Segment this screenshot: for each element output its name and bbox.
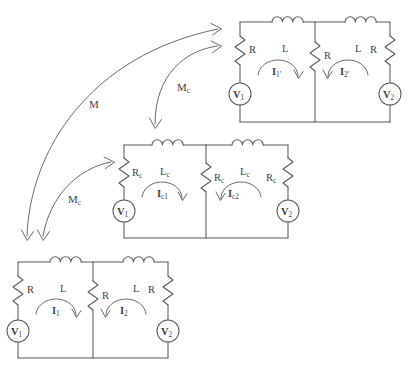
circuit-top-right xyxy=(229,17,401,122)
inductor-label-6: L xyxy=(133,284,139,296)
mesh-current-arrowhead-1 xyxy=(294,70,303,79)
inductor-label-4: Lc xyxy=(240,167,250,179)
diagram-vector-layer xyxy=(0,0,413,387)
resistor-zigzag-6 xyxy=(283,158,293,187)
coupling-label-mc-lower: Mc xyxy=(68,194,81,207)
resistor-label-6: Rc xyxy=(266,173,276,185)
resistor-label-8: R xyxy=(102,291,109,303)
mesh-current-arrowhead-2 xyxy=(323,70,332,79)
inductor-coil-1 xyxy=(272,17,303,22)
circuit-middle xyxy=(113,140,299,238)
resistor-zigzag-1 xyxy=(235,36,245,65)
source-label-v1-bot: V1 xyxy=(11,327,22,339)
current-label-6: I2 xyxy=(120,306,128,318)
resistor-label-2: R xyxy=(324,51,331,63)
mesh-current-arrowhead-5 xyxy=(72,309,81,318)
source-label-v1-mid: V1 xyxy=(117,207,128,219)
resistor-label-7: R xyxy=(27,285,34,297)
circuit-diagram: L L R R R I1' I2' V1 V2 Lc Lc Rc Rc Rc I… xyxy=(0,0,413,387)
circuit-bottom-left xyxy=(7,257,179,358)
current-label-1: I1' xyxy=(272,67,281,79)
resistor-zigzag-7 xyxy=(13,276,23,305)
inductor-label-2: L xyxy=(355,44,361,56)
resistor-zigzag-9 xyxy=(163,276,173,305)
current-label-5: I1 xyxy=(52,306,60,318)
mesh-current-arc-4 xyxy=(221,182,261,199)
source-label-v1: V1 xyxy=(233,90,244,102)
current-label-2: I2' xyxy=(340,67,349,79)
mesh-current-arrowhead-6 xyxy=(101,309,110,318)
inductor-label-5: L xyxy=(60,284,66,296)
source-label-v2-bot: V2 xyxy=(161,327,172,339)
resistor-label-4: Rc xyxy=(132,168,142,180)
resistor-zigzag-2 xyxy=(310,42,320,71)
resistor-zigzag-8 xyxy=(88,281,98,310)
resistor-label-3: R xyxy=(370,45,377,57)
inductor-coil-2 xyxy=(345,17,376,22)
inductor-coil-6 xyxy=(123,257,154,262)
mesh-current-arrowhead-4 xyxy=(216,192,225,201)
inductor-coil-3 xyxy=(152,140,183,145)
mesh-current-arrowhead-3 xyxy=(178,192,187,201)
coupling-label-mc-upper: Mc xyxy=(177,82,190,95)
resistor-zigzag-5 xyxy=(201,163,211,192)
current-label-3: Ic1 xyxy=(157,189,168,201)
resistor-zigzag-4 xyxy=(119,158,129,187)
inductor-label-1: L xyxy=(282,44,288,56)
source-label-v2: V2 xyxy=(383,90,394,102)
current-label-4: Ic2 xyxy=(228,189,239,201)
coupling-label-m: M xyxy=(89,99,99,112)
source-label-v2-mid: V2 xyxy=(281,207,292,219)
resistor-label-9: R xyxy=(148,285,155,297)
inductor-coil-4 xyxy=(232,140,263,145)
inductor-label-3: Lc xyxy=(160,167,170,179)
resistor-zigzag-3 xyxy=(385,36,395,65)
resistor-label-1: R xyxy=(249,45,256,57)
inductor-coil-5 xyxy=(50,257,81,262)
resistor-label-5: Rc xyxy=(214,173,224,185)
